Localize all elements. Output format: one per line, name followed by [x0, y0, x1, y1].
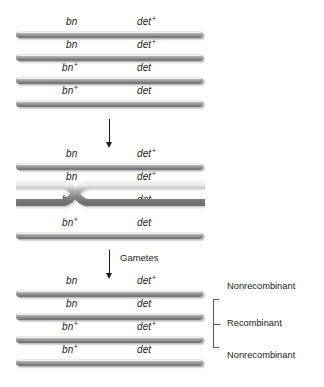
gene-label-left: bn+ [62, 344, 78, 355]
gene-label-left: bn+ [62, 321, 78, 332]
chromatid-bar [16, 163, 203, 170]
chromatid-bar [16, 336, 203, 343]
gene-label-right: det+ [137, 148, 156, 159]
gene-label-left: bn+ [62, 85, 78, 96]
chromatid-bar [16, 31, 203, 38]
chromatid-bar [16, 77, 203, 84]
gene-label-right: det+ [137, 275, 156, 286]
gene-label-right: det [137, 85, 152, 96]
crossover-chiasma [16, 180, 205, 212]
gene-label-right: det [137, 217, 152, 228]
outcome-label-nonrecombinant-bottom: Nonrecombinant [227, 350, 295, 360]
chromatid-bar [16, 54, 203, 61]
gene-label-left: bn [66, 39, 78, 50]
gene-label-left: bn+ [62, 217, 78, 228]
chromatid-bar [16, 232, 203, 239]
chromatid-bar [16, 359, 203, 366]
gene-label-right: det [137, 298, 152, 309]
gene-label-right: det+ [137, 39, 156, 50]
gene-label-left: bn [66, 275, 78, 286]
gene-label-right: det [137, 62, 152, 73]
figure-canvas: bn det+ bn det+ bn+ det bn+ det [0, 0, 324, 387]
gene-label-left: bn [66, 298, 78, 309]
outcome-label-recombinant: Recombinant [227, 318, 282, 328]
chromatid-bar [16, 313, 203, 320]
gene-label-right: det [137, 344, 152, 355]
outcome-label-nonrecombinant-top: Nonrecombinant [227, 281, 295, 291]
chromatid-bar [16, 100, 203, 107]
gene-label-left: bn [66, 148, 78, 159]
gametes-arrow-label: Gametes [120, 252, 159, 263]
gene-label-right: det+ [137, 16, 156, 27]
gene-label-right: det+ [137, 321, 156, 332]
gene-label-left: bn [66, 16, 78, 27]
chromatid-bar [16, 290, 203, 297]
gene-label-left: bn+ [62, 62, 78, 73]
